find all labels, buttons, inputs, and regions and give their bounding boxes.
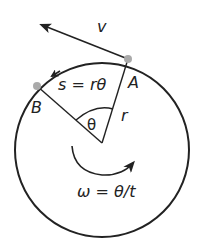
radius-label: r bbox=[121, 106, 129, 125]
velocity-vector bbox=[42, 25, 128, 59]
point-a-label: A bbox=[127, 73, 139, 92]
circular-motion-diagram: v A B r θ s = rθ ω = θ/t bbox=[0, 0, 209, 251]
radius-line-b bbox=[37, 86, 102, 143]
point-a-marker bbox=[124, 55, 132, 63]
velocity-label: v bbox=[97, 17, 107, 36]
point-b-marker bbox=[33, 82, 41, 90]
radius-line-a bbox=[102, 59, 128, 143]
rotation-arrow bbox=[72, 146, 133, 175]
point-b-label: B bbox=[31, 98, 42, 117]
angular-velocity-formula: ω = θ/t bbox=[77, 182, 136, 201]
arc-length-formula: s = rθ bbox=[58, 75, 106, 94]
angle-label: θ bbox=[87, 116, 96, 134]
